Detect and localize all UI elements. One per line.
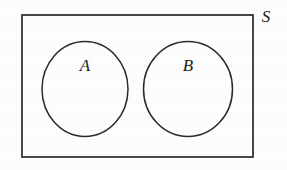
set-b-label: B <box>183 56 194 75</box>
venn-diagram-figure: A B S <box>0 0 287 170</box>
venn-diagram-canvas: A B S <box>0 0 287 170</box>
set-a-label: A <box>79 56 91 75</box>
universal-set-rectangle <box>22 15 253 157</box>
universal-set-label: S <box>262 7 271 26</box>
